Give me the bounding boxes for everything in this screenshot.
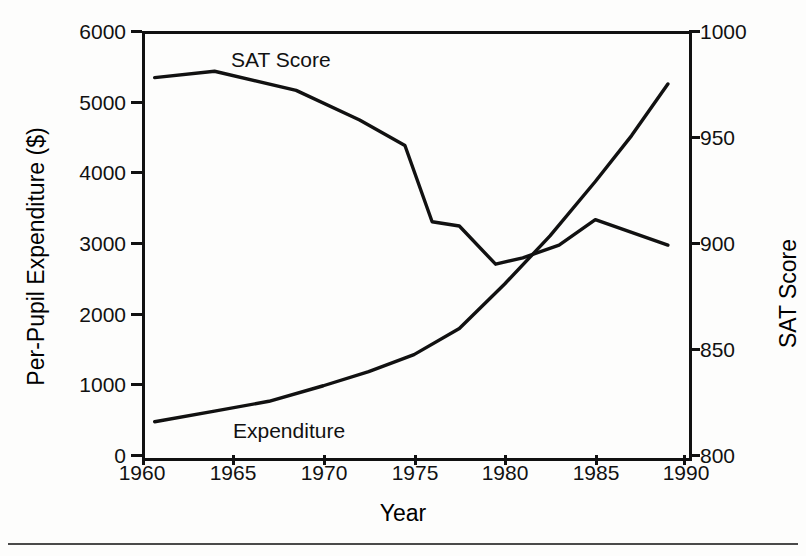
- xtick-label-1970: 1970: [301, 462, 348, 483]
- xtick-label-1980: 1980: [482, 462, 529, 483]
- series-annotation-sat-score: SAT Score: [231, 49, 331, 70]
- y-axis-left-title: Per-Pupil Expenditure ($): [23, 77, 50, 437]
- xtick-label-1990: 1990: [663, 462, 710, 483]
- y-axis-right-title: SAT Score: [775, 114, 802, 474]
- chart-figure: 0 1000 2000 3000 4000 5000 6000 800 850 …: [0, 0, 806, 556]
- series-annotation-expenditure: Expenditure: [233, 420, 345, 441]
- xtick-label-1985: 1985: [573, 462, 620, 483]
- x-axis-title: Year: [0, 500, 806, 527]
- xtick-labels: 1960 1965 1970 1975 1980 1985 1990: [0, 0, 806, 556]
- xtick-label-1975: 1975: [392, 462, 439, 483]
- xtick-label-1965: 1965: [210, 462, 257, 483]
- bottom-divider-rule: [8, 543, 798, 545]
- xtick-label-1960: 1960: [119, 462, 166, 483]
